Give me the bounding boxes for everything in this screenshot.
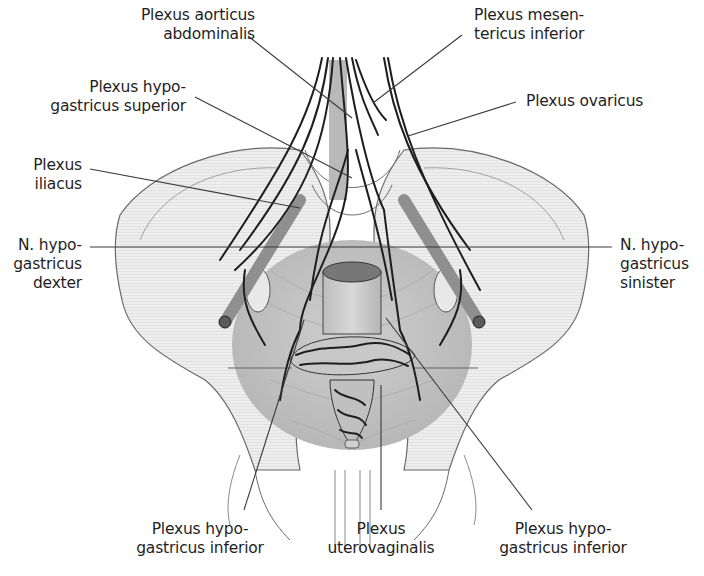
label-plexus-iliacus: Plexus iliacus — [20, 156, 82, 194]
label-plexus-hypogastricus-inferior-left: Plexus hypo- gastricus inferior — [125, 520, 275, 558]
anatomy-diagram: Plexus aorticus abdominalis Plexus mesen… — [0, 0, 704, 576]
label-plexus-uterovaginalis: Plexus uterovaginalis — [320, 520, 442, 558]
label-n-hypogastricus-dexter: N. hypo- gastricus dexter — [0, 236, 82, 293]
label-plexus-aorticus-abdominalis: Plexus aorticus abdominalis — [120, 6, 255, 44]
label-plexus-mesentericus-inferior: Plexus mesen- tericus inferior — [474, 6, 584, 44]
label-plexus-hypogastricus-superior: Plexus hypo- gastricus superior — [40, 78, 186, 116]
label-plexus-ovaricus: Plexus ovaricus — [526, 92, 643, 111]
label-n-hypogastricus-sinister: N. hypo- gastricus sinister — [620, 236, 689, 293]
label-plexus-hypogastricus-inferior-right: Plexus hypo- gastricus inferior — [488, 520, 638, 558]
